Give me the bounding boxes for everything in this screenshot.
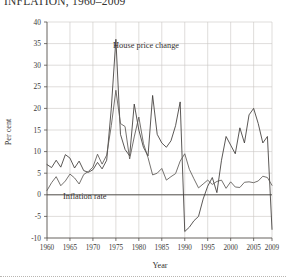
svg-text:1990: 1990 [178,244,193,252]
annotation-inflation-rate: Inflation rate [63,192,107,201]
svg-text:35: 35 [34,39,42,48]
series-line-1 [47,90,272,190]
svg-text:1975: 1975 [109,244,124,252]
svg-text:1970: 1970 [86,244,101,252]
svg-text:2009: 2009 [265,244,280,252]
y-axis-tick-labels: -10-50510152025303540 [31,18,41,243]
svg-text:25: 25 [34,82,42,91]
svg-text:-10: -10 [31,234,41,243]
x-axis-tick-labels: 1960196519701975198019851990199520002005… [40,244,280,252]
chart-canvas: -10-50510152025303540 196019651970197519… [0,0,286,280]
svg-text:10: 10 [34,147,42,156]
svg-text:40: 40 [34,18,42,27]
inflation-figure: INFLATION, 1960–2009 -10-505101520253035… [0,0,286,280]
svg-text:2000: 2000 [223,244,238,252]
series-line-0 [47,39,272,231]
svg-text:30: 30 [34,61,42,70]
tick-marks [44,22,272,241]
data-series-group [47,39,272,231]
svg-text:2005: 2005 [246,244,261,252]
annotation-house-price-change: House price change [113,41,179,50]
svg-text:15: 15 [34,126,42,135]
svg-text:1980: 1980 [132,244,147,252]
svg-text:1995: 1995 [201,244,216,252]
svg-text:1965: 1965 [63,244,78,252]
svg-text:20: 20 [34,104,42,113]
svg-text:-5: -5 [35,212,41,221]
bottom-divider [0,276,286,277]
svg-text:1985: 1985 [155,244,170,252]
x-axis-title: Year [152,261,167,270]
svg-text:0: 0 [37,190,41,199]
y-axis-title: Per cent [4,118,13,145]
svg-text:1960: 1960 [40,244,55,252]
svg-text:5: 5 [37,169,41,178]
